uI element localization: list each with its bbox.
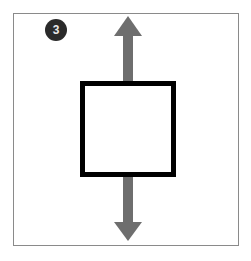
step-number-badge: 3 xyxy=(45,19,67,41)
arrow-up-icon xyxy=(114,16,142,86)
square-box xyxy=(80,81,176,177)
arrow-down-icon xyxy=(114,172,142,241)
